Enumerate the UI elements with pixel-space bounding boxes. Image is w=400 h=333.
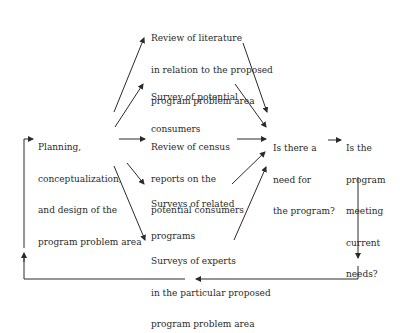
node-related-line: Surveys of related (151, 199, 234, 210)
node-planning-line: and design of the (38, 205, 142, 216)
node-experts-line: program problem area (151, 319, 271, 330)
node-need: Is there a need for the program? (273, 122, 335, 238)
node-planning-line: Planning, (38, 142, 142, 153)
node-meeting-line: meeting (346, 206, 385, 217)
node-need-line: Is there a (273, 143, 335, 154)
node-meeting-line: current (346, 238, 385, 249)
node-experts-line: Surveys of experts (151, 256, 271, 267)
node-census-line: Review of census (151, 142, 244, 153)
node-meeting-line: program (346, 175, 385, 186)
node-planning: Planning, conceptualization, and design … (38, 121, 142, 268)
node-need-line: need for (273, 175, 335, 186)
node-meeting-line: needs? (346, 269, 385, 280)
node-experts: Surveys of experts in the particular pro… (151, 235, 271, 333)
arrow-planning-to-literature (114, 38, 144, 112)
node-planning-line: conceptualization, (38, 174, 142, 185)
node-meeting: Is the program meeting current needs? (346, 122, 385, 301)
node-consumers-line: Survey of potential (151, 92, 238, 103)
node-experts-line: in the particular proposed (151, 288, 271, 299)
node-planning-line: program problem area (38, 237, 142, 248)
node-need-line: the program? (273, 206, 335, 217)
node-literature-line: Review of literature (151, 33, 273, 44)
node-meeting-line: Is the (346, 143, 385, 154)
